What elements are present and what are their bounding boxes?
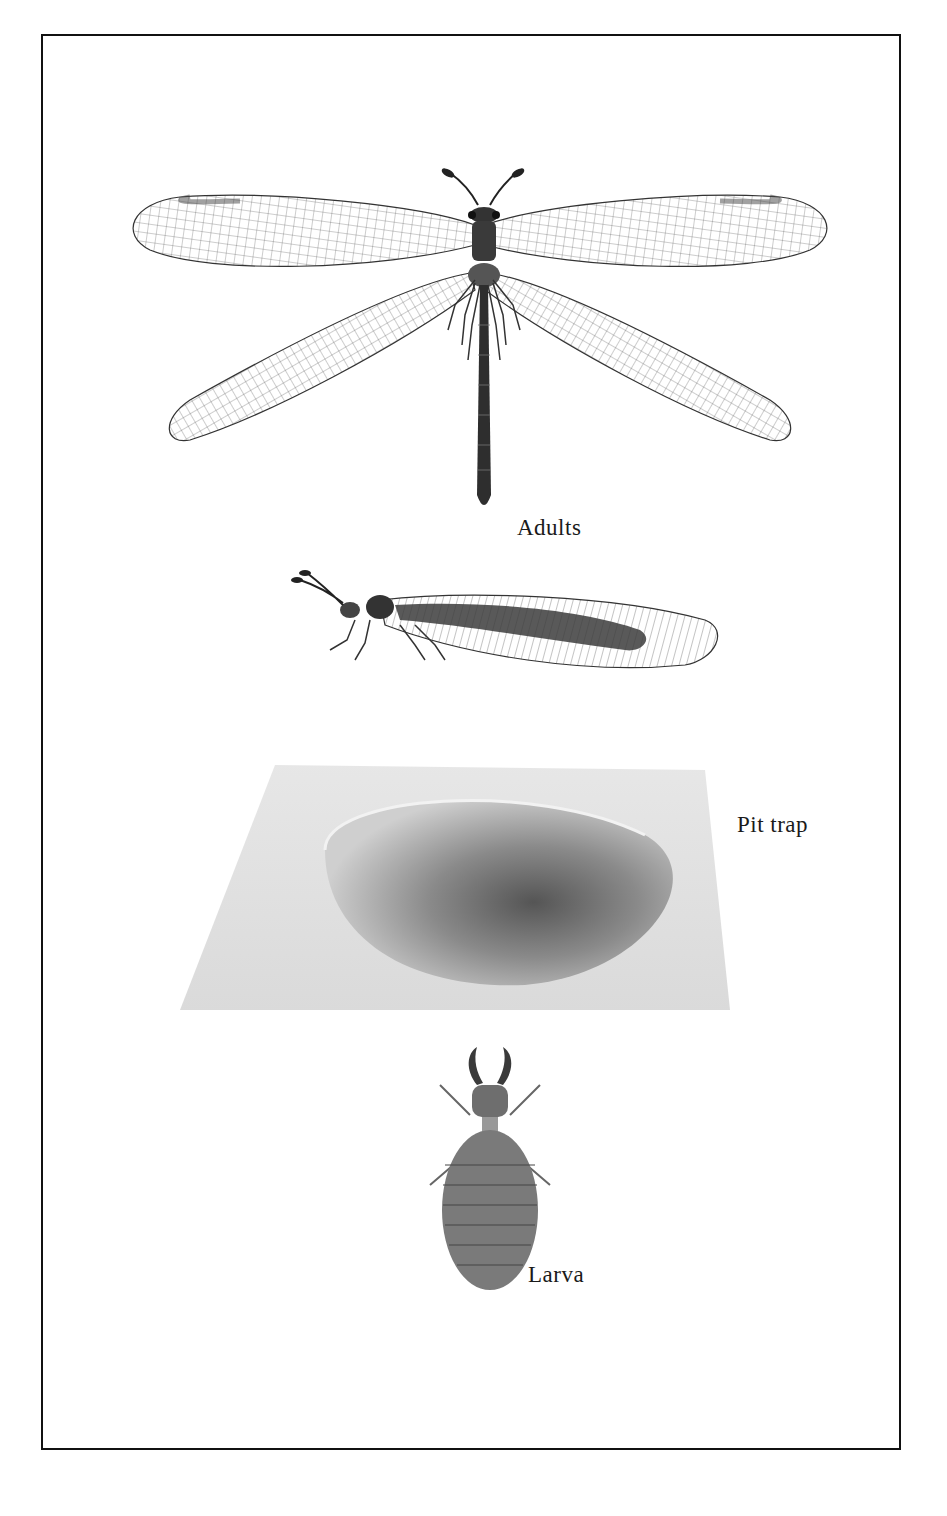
pit-trap-illustration [175, 755, 735, 1025]
label-larva: Larva [528, 1262, 584, 1288]
adult-lateral-illustration [285, 565, 725, 675]
label-adults: Adults [517, 515, 581, 541]
label-pit-trap: Pit trap [737, 812, 808, 838]
adult-dorsal-illustration [120, 165, 840, 515]
larva-illustration [425, 1045, 555, 1295]
